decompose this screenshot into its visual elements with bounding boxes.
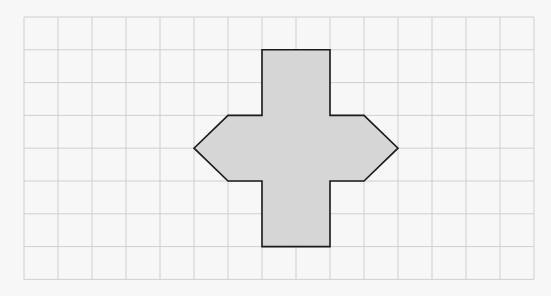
grid-canvas (0, 0, 551, 296)
grid-diagram (0, 0, 551, 296)
